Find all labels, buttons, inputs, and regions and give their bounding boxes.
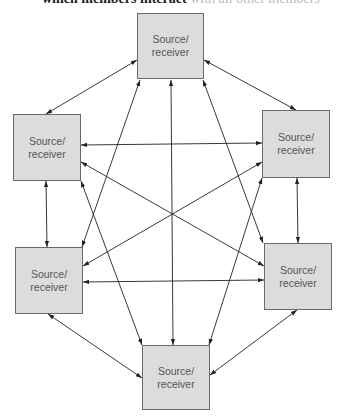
node-upper-right: Source/receiver (262, 110, 330, 178)
node-bottom: Source/receiver (142, 345, 210, 410)
node-upper-left: Source/receiver (13, 114, 81, 181)
node-lower-left: Source/receiver (15, 247, 83, 314)
node-top: Source/receiver (137, 13, 204, 79)
node-lower-right: Source/receiver (264, 243, 332, 310)
